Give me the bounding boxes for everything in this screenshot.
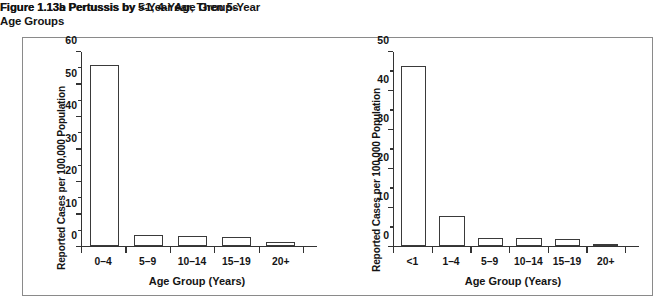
x-tick-b-2 (470, 247, 471, 253)
y-tick-a-20 (76, 181, 81, 182)
x-tick-label-a-4: 20+ (272, 256, 289, 267)
y-tick-b-30 (388, 129, 393, 130)
bar-slot (587, 51, 625, 246)
y-tick-minor-a-4 (78, 100, 81, 101)
x-tick-label-b-1: 1–4 (442, 256, 459, 267)
x-tick-label-b-3: 10–14 (514, 256, 543, 267)
y-tick-label-a-40: 40 (65, 99, 77, 111)
x-tick-b-1 (432, 247, 433, 253)
x-tick-a-0 (81, 247, 82, 253)
x-tick-label-b-4: 15–19 (553, 256, 582, 267)
y-tick-label-b-30: 30 (377, 112, 389, 124)
y-tick-label-b-20: 20 (377, 151, 389, 163)
y-tick-label-a-30: 30 (65, 132, 77, 144)
figure-frame: Reported Cases per 100,000 Population 01… (22, 37, 653, 296)
bar-slot (259, 51, 303, 246)
y-tick-minor-a-0 (78, 230, 81, 231)
bar-slot (394, 51, 432, 246)
x-tick-label-a-1: 5–9 (139, 256, 156, 267)
plot-area-b: 01020304050 (393, 52, 625, 247)
y-tick-label-a-0: 0 (71, 229, 77, 241)
y-tick-minor-b-4 (390, 70, 393, 71)
x-tick-a-2 (170, 247, 171, 253)
chart-panel-a: Reported Cases per 100,000 Population 01… (23, 38, 339, 297)
x-tick-label-a-3: 15–19 (222, 256, 251, 267)
bar-b-4[interactable] (555, 239, 580, 246)
x-tick-a-4 (259, 247, 260, 253)
y-tick-b-10 (388, 207, 393, 208)
y-tick-minor-b-1 (390, 187, 393, 188)
y-tick-label-b-10: 10 (377, 190, 389, 202)
x-tick-label-b-2: 5–9 (481, 256, 498, 267)
x-tick-label-b-5: 20+ (597, 256, 614, 267)
y-tick-minor-b-0 (390, 226, 393, 227)
y-tick-minor-a-1 (78, 197, 81, 198)
bar-b-3[interactable] (516, 238, 541, 246)
y-tick-minor-a-2 (78, 165, 81, 166)
y-tick-a-50 (76, 83, 81, 84)
x-tick-b-6 (625, 247, 626, 253)
bar-b-0[interactable] (401, 66, 426, 245)
y-tick-a-60 (76, 51, 81, 52)
y-tick-label-b-0: 0 (383, 229, 389, 241)
y-axis-label-a: Reported Cases per 100,000 Population (56, 86, 67, 270)
y-tick-minor-b-2 (390, 148, 393, 149)
bar-group-a (82, 51, 303, 246)
bar-slot (215, 51, 259, 246)
y-tick-minor-a-3 (78, 132, 81, 133)
bar-slot (433, 51, 471, 246)
y-tick-label-a-60: 60 (65, 34, 77, 46)
bar-slot (510, 51, 548, 246)
y-tick-label-a-20: 20 (65, 164, 77, 176)
bar-slot (126, 51, 170, 246)
bar-a-1[interactable] (134, 235, 163, 245)
y-tick-b-50 (388, 51, 393, 52)
x-axis-label-b: Age Group (Years) (393, 275, 633, 287)
bar-a-2[interactable] (178, 236, 207, 246)
plot-area-a: 0102030405060 (81, 52, 303, 247)
bar-a-0[interactable] (90, 65, 119, 245)
y-tick-label-a-50: 50 (65, 67, 77, 79)
bar-b-5[interactable] (593, 244, 618, 246)
x-tick-b-3 (509, 247, 510, 253)
chart-panel-b: Reported Cases per 100,000 Population 01… (339, 38, 654, 297)
y-tick-b-20 (388, 168, 393, 169)
x-tick-label-a-0: 0–4 (95, 256, 112, 267)
bar-a-4[interactable] (266, 242, 295, 245)
bar-slot (171, 51, 215, 246)
bar-b-1[interactable] (439, 216, 464, 245)
x-tick-a-1 (125, 247, 126, 253)
y-tick-a-40 (76, 116, 81, 117)
x-axis-label-a: Age Group (Years) (81, 275, 313, 287)
figure-title-b: Figure 1.13b Pertussis by <1, 4-Year, Th… (0, 0, 260, 28)
x-tick-b-4 (548, 247, 549, 253)
y-tick-label-b-40: 40 (377, 73, 389, 85)
bar-slot (471, 51, 509, 246)
y-tick-minor-a-5 (78, 67, 81, 68)
x-tick-label-b-0: <1 (406, 256, 418, 267)
y-tick-minor-b-3 (390, 109, 393, 110)
x-axis-line-a (81, 246, 317, 247)
y-tick-label-a-10: 10 (65, 197, 77, 209)
y-tick-label-b-50: 50 (377, 34, 389, 46)
y-tick-a-30 (76, 148, 81, 149)
bar-slot (548, 51, 586, 246)
x-tick-b-5 (586, 247, 587, 253)
x-tick-b-0 (393, 247, 394, 253)
y-tick-a-10 (76, 213, 81, 214)
y-tick-b-40 (388, 90, 393, 91)
x-axis-line-b (393, 246, 639, 247)
bar-slot (82, 51, 126, 246)
bar-a-3[interactable] (222, 237, 251, 246)
x-tick-label-a-2: 10–14 (178, 256, 207, 267)
x-tick-a-3 (214, 247, 215, 253)
bar-group-b (394, 51, 625, 246)
x-tick-a-5 (303, 247, 304, 253)
bar-b-2[interactable] (478, 238, 503, 246)
